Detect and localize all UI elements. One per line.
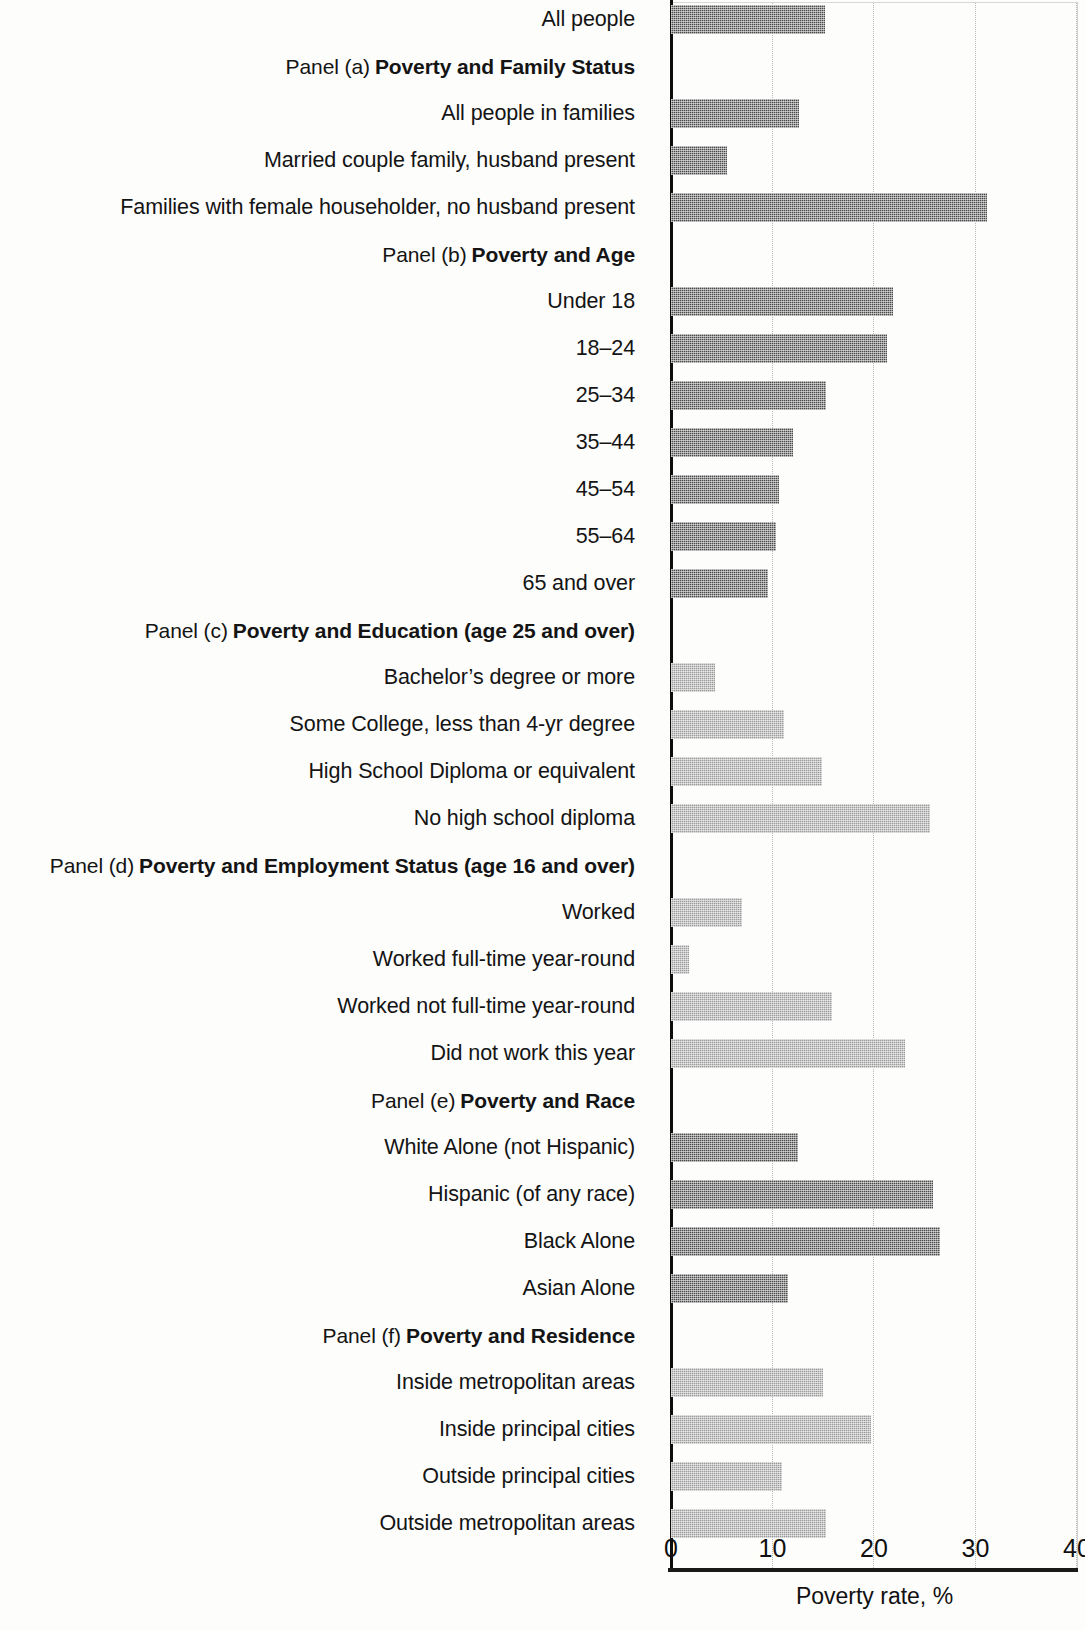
bar — [671, 945, 689, 974]
poverty-rate-bar-chart: All peoplePanel (a)Poverty and Family St… — [0, 0, 1085, 1630]
panel-title: Poverty and Education (age 25 and over) — [228, 619, 635, 643]
bar — [671, 1180, 933, 1209]
category-label: Worked full-time year-round — [0, 936, 648, 983]
category-label: Inside metropolitan areas — [0, 1359, 648, 1406]
bar — [671, 1133, 798, 1162]
x-axis-line — [668, 1568, 1078, 1572]
panel-heading: Panel (f)Poverty and Residence — [0, 1312, 648, 1359]
chart-row: Worked — [0, 889, 1085, 936]
panel-title: Poverty and Race — [455, 1089, 635, 1113]
chart-row: 65 and over — [0, 560, 1085, 607]
bar — [671, 287, 893, 316]
chart-row: Families with female householder, no hus… — [0, 184, 1085, 231]
panel-heading-row: Panel (b)Poverty and Age — [0, 231, 1085, 278]
chart-row: 18–24 — [0, 325, 1085, 372]
panel-prefix: Panel (d) — [50, 854, 134, 878]
chart-row: Did not work this year — [0, 1030, 1085, 1077]
category-label: 35–44 — [0, 419, 648, 466]
x-axis-title: Poverty rate, % — [671, 1583, 1078, 1610]
category-label: Outside principal cities — [0, 1453, 648, 1500]
panel-heading-row: Panel (f)Poverty and Residence — [0, 1312, 1085, 1359]
panel-heading: Panel (b)Poverty and Age — [0, 231, 648, 278]
chart-row: Black Alone — [0, 1218, 1085, 1265]
bar — [671, 381, 826, 410]
category-label: Asian Alone — [0, 1265, 648, 1312]
x-tick-label-0: 0 — [641, 1534, 701, 1563]
category-label: No high school diploma — [0, 795, 648, 842]
chart-row: Bachelor’s degree or more — [0, 654, 1085, 701]
category-label: Under 18 — [0, 278, 648, 325]
x-tick-label-10: 10 — [743, 1534, 803, 1563]
category-label: Married couple family, husband present — [0, 137, 648, 184]
chart-row: White Alone (not Hispanic) — [0, 1124, 1085, 1171]
x-tick-label-20: 20 — [844, 1534, 904, 1563]
bar — [671, 475, 779, 504]
category-label: Inside principal cities — [0, 1406, 648, 1453]
category-label: Bachelor’s degree or more — [0, 654, 648, 701]
category-label: Did not work this year — [0, 1030, 648, 1077]
source-note-clipped — [8, 1620, 1078, 1630]
bar — [671, 1462, 782, 1491]
chart-row: All people in families — [0, 90, 1085, 137]
panel-prefix: Panel (e) — [371, 1089, 455, 1113]
category-label: Outside metropolitan areas — [0, 1500, 648, 1547]
panel-prefix: Panel (f) — [323, 1324, 401, 1348]
category-label: 45–54 — [0, 466, 648, 513]
chart-row: Outside metropolitan areas — [0, 1500, 1085, 1547]
x-tick-label-40: 40 — [1047, 1534, 1085, 1563]
category-label: White Alone (not Hispanic) — [0, 1124, 648, 1171]
panel-heading: Panel (a)Poverty and Family Status — [0, 43, 648, 90]
bar — [671, 757, 822, 786]
bar — [671, 522, 776, 551]
panel-prefix: Panel (c) — [145, 619, 228, 643]
chart-row: Worked not full-time year-round — [0, 983, 1085, 1030]
category-label: 65 and over — [0, 560, 648, 607]
chart-row: Outside principal cities — [0, 1453, 1085, 1500]
panel-heading-row: Panel (c)Poverty and Education (age 25 a… — [0, 607, 1085, 654]
bar — [671, 804, 930, 833]
bar — [671, 1415, 871, 1444]
panel-heading-row: Panel (d)Poverty and Employment Status (… — [0, 842, 1085, 889]
chart-row: Inside principal cities — [0, 1406, 1085, 1453]
panel-heading: Panel (e)Poverty and Race — [0, 1077, 648, 1124]
category-label: Worked — [0, 889, 648, 936]
bar — [671, 898, 742, 927]
panel-heading-row: Panel (a)Poverty and Family Status — [0, 43, 1085, 90]
panel-title: Poverty and Employment Status (age 16 an… — [134, 854, 635, 878]
category-label: Worked not full-time year-round — [0, 983, 648, 1030]
panel-prefix: Panel (a) — [286, 55, 370, 79]
panel-title: Poverty and Age — [467, 243, 635, 267]
category-label: All people — [0, 0, 648, 43]
bar — [671, 99, 799, 128]
panel-heading: Panel (d)Poverty and Employment Status (… — [0, 842, 648, 889]
bar — [671, 1274, 788, 1303]
bar — [671, 569, 768, 598]
category-label: Some College, less than 4-yr degree — [0, 701, 648, 748]
bar — [671, 1039, 905, 1068]
chart-row: Under 18 — [0, 278, 1085, 325]
bar — [671, 1227, 940, 1256]
bar — [671, 663, 715, 692]
chart-row: 25–34 — [0, 372, 1085, 419]
category-label: 25–34 — [0, 372, 648, 419]
bar — [671, 1368, 823, 1397]
chart-row: High School Diploma or equivalent — [0, 748, 1085, 795]
x-tick-label-30: 30 — [946, 1534, 1006, 1563]
bar — [671, 193, 987, 222]
chart-row: 55–64 — [0, 513, 1085, 560]
bar — [671, 146, 727, 175]
panel-heading: Panel (c)Poverty and Education (age 25 a… — [0, 607, 648, 654]
panel-title: Poverty and Residence — [401, 1324, 635, 1348]
category-label: High School Diploma or equivalent — [0, 748, 648, 795]
bar — [671, 710, 784, 739]
chart-row: Hispanic (of any race) — [0, 1171, 1085, 1218]
chart-row: 35–44 — [0, 419, 1085, 466]
chart-row: Worked full-time year-round — [0, 936, 1085, 983]
panel-prefix: Panel (b) — [382, 243, 466, 267]
category-label: Families with female householder, no hus… — [0, 184, 648, 231]
bar — [671, 428, 793, 457]
bar — [671, 992, 832, 1021]
bar — [671, 5, 825, 34]
chart-row: Asian Alone — [0, 1265, 1085, 1312]
panel-heading-row: Panel (e)Poverty and Race — [0, 1077, 1085, 1124]
